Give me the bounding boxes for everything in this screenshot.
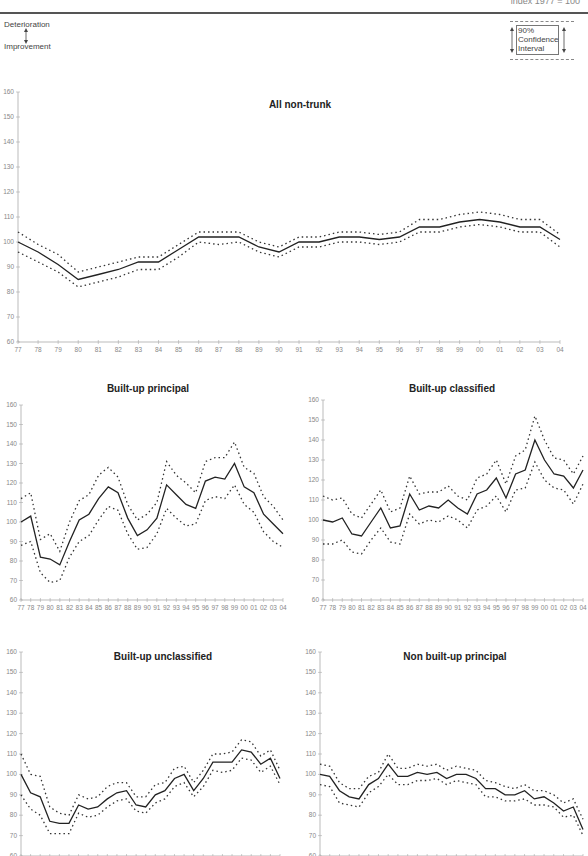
y-tick-label: 90 — [10, 538, 18, 545]
x-tick-label: 85 — [175, 346, 183, 353]
x-tick-label: 95 — [192, 604, 200, 611]
x-tick-label: 91 — [295, 346, 303, 353]
chart-title: Built-up principal — [107, 383, 189, 394]
y-tick-label: 160 — [6, 648, 17, 655]
lower-ci-line — [21, 758, 280, 834]
x-tick-label: 88 — [425, 604, 433, 611]
index-line — [320, 764, 583, 829]
y-tick-label: 150 — [3, 113, 14, 120]
x-tick-label: 86 — [105, 604, 113, 611]
upper-ci-line — [320, 754, 583, 819]
upper-ci-line — [323, 416, 583, 518]
y-tick-label: 80 — [10, 811, 18, 818]
y-tick-label: 60 — [309, 852, 317, 856]
y-tick-label: 60 — [10, 852, 18, 856]
x-tick-label: 00 — [541, 604, 549, 611]
x-tick-label: 03 — [536, 346, 544, 353]
x-tick-label: 82 — [368, 604, 376, 611]
x-tick-label: 94 — [182, 604, 190, 611]
x-tick-label: 02 — [516, 346, 524, 353]
y-tick-label: 150 — [305, 668, 316, 675]
x-tick-label: 80 — [75, 346, 83, 353]
x-tick-label: 98 — [436, 346, 444, 353]
y-tick-label: 100 — [308, 516, 319, 523]
x-tick-label: 03 — [270, 604, 278, 611]
y-tick-label: 60 — [10, 596, 18, 603]
x-tick-label: 82 — [66, 604, 74, 611]
chart-title: All non-trunk — [269, 99, 332, 110]
x-tick-label: 00 — [241, 604, 249, 611]
y-tick-label: 90 — [10, 791, 18, 798]
y-tick-label: 130 — [308, 456, 319, 463]
y-tick-label: 160 — [308, 396, 319, 403]
y-tick-label: 130 — [6, 709, 17, 716]
y-tick-label: 80 — [312, 556, 320, 563]
x-tick-label: 91 — [153, 604, 161, 611]
y-tick-label: 60 — [7, 338, 15, 345]
x-tick-label: 98 — [221, 604, 229, 611]
x-tick-label: 80 — [348, 604, 356, 611]
y-tick-label: 120 — [305, 730, 316, 737]
lower-ci-line — [323, 462, 583, 554]
y-tick-label: 150 — [6, 668, 17, 675]
x-tick-label: 87 — [416, 604, 424, 611]
y-tick-label: 100 — [6, 770, 17, 777]
x-tick-label: 99 — [531, 604, 539, 611]
x-tick-label: 92 — [163, 604, 171, 611]
x-tick-label: 91 — [454, 604, 462, 611]
lower-ci-line — [320, 774, 583, 835]
x-tick-label: 92 — [464, 604, 472, 611]
y-tick-label: 100 — [305, 770, 316, 777]
y-tick-label: 80 — [7, 288, 15, 295]
x-tick-label: 98 — [522, 604, 530, 611]
y-tick-label: 100 — [6, 518, 17, 525]
y-tick-label: 70 — [7, 313, 15, 320]
x-tick-label: 77 — [14, 346, 22, 353]
y-tick-label: 110 — [306, 750, 317, 757]
x-tick-label: 99 — [231, 604, 239, 611]
x-tick-label: 86 — [406, 604, 414, 611]
x-tick-label: 79 — [37, 604, 45, 611]
x-tick-label: 85 — [396, 604, 404, 611]
x-tick-label: 77 — [319, 604, 327, 611]
y-tick-label: 70 — [10, 832, 18, 839]
x-tick-label: 81 — [56, 604, 64, 611]
x-tick-label: 81 — [358, 604, 366, 611]
x-tick-label: 80 — [46, 604, 54, 611]
y-tick-label: 90 — [309, 791, 317, 798]
y-tick-label: 120 — [3, 188, 14, 195]
x-tick-label: 04 — [579, 604, 587, 611]
x-tick-label: 03 — [570, 604, 578, 611]
y-tick-label: 140 — [308, 436, 319, 443]
x-tick-label: 87 — [215, 346, 223, 353]
y-tick-label: 80 — [10, 557, 18, 564]
y-tick-label: 160 — [3, 88, 14, 95]
x-tick-label: 89 — [134, 604, 142, 611]
x-tick-label: 90 — [445, 604, 453, 611]
y-tick-label: 70 — [309, 832, 317, 839]
y-tick-label: 140 — [6, 440, 17, 447]
x-tick-label: 93 — [336, 346, 344, 353]
x-tick-label: 96 — [202, 604, 210, 611]
chart-built-up-unclassified: 6070809010011012013014015016077787980818… — [6, 648, 284, 856]
x-tick-label: 97 — [512, 604, 520, 611]
x-tick-label: 93 — [473, 604, 481, 611]
x-tick-label: 85 — [95, 604, 103, 611]
upper-ci-line — [18, 212, 560, 272]
x-tick-label: 90 — [275, 346, 283, 353]
x-tick-label: 84 — [155, 346, 163, 353]
x-tick-label: 82 — [115, 346, 123, 353]
x-tick-label: 93 — [173, 604, 181, 611]
x-tick-label: 78 — [27, 604, 35, 611]
x-tick-label: 90 — [144, 604, 152, 611]
x-tick-label: 97 — [416, 346, 424, 353]
x-tick-label: 83 — [76, 604, 84, 611]
x-tick-label: 87 — [114, 604, 122, 611]
y-tick-label: 150 — [6, 421, 17, 428]
y-tick-label: 100 — [3, 238, 14, 245]
x-tick-label: 77 — [17, 604, 25, 611]
y-tick-label: 120 — [308, 476, 319, 483]
y-tick-label: 120 — [6, 730, 17, 737]
x-tick-label: 88 — [235, 346, 243, 353]
x-tick-label: 83 — [377, 604, 385, 611]
